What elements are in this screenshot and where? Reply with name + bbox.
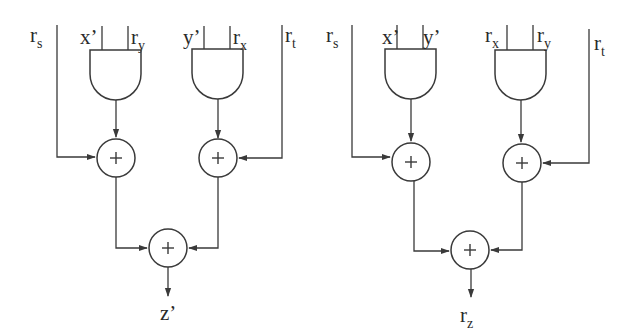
- label-output-z-prime: z’: [160, 301, 176, 325]
- input-rs-wire: rs: [326, 23, 390, 157]
- label-y-prime: y’: [183, 25, 201, 49]
- xor-adder-output: [451, 231, 489, 269]
- and-gate-2: rx ry: [485, 23, 551, 142]
- label-rx: rx: [233, 25, 247, 53]
- input-rt-wire: rt: [239, 23, 296, 158]
- xor-adder-2: [199, 139, 237, 177]
- circuit-figure: rs x’ ry y’ rx rt: [0, 0, 631, 336]
- xor-adder-2: [503, 144, 541, 182]
- label-rs: rs: [30, 23, 42, 51]
- label-output-rz: rz: [460, 303, 473, 331]
- label-rt: rt: [285, 23, 296, 51]
- xor-adder-1: [97, 139, 135, 177]
- label-rx: rx: [485, 23, 499, 51]
- label-rs: rs: [326, 23, 338, 51]
- xor-adder-output: [149, 229, 187, 267]
- and-gate-2: y’ rx: [183, 25, 247, 138]
- right-circuit: rs x’ y’ rx ry rt: [326, 23, 605, 331]
- and-gate-1: x’ y’: [382, 25, 441, 141]
- left-circuit: rs x’ ry y’ rx rt: [30, 23, 296, 325]
- xor-adder-1: [392, 143, 430, 181]
- label-y-prime: y’: [423, 25, 441, 49]
- label-rt: rt: [594, 31, 605, 59]
- input-rt-wire: rt: [543, 29, 605, 163]
- label-ry: ry: [537, 23, 551, 51]
- and-gate-1: x’ ry: [80, 25, 145, 137]
- label-x-prime: x’: [382, 25, 400, 49]
- label-ry: ry: [131, 25, 145, 53]
- label-x-prime: x’: [80, 25, 98, 49]
